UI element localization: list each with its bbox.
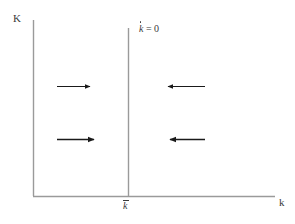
phase-diagram-figure: K k k = 0 k [0,0,295,224]
x-axis-label: k [279,197,285,208]
steady-state-tick-label: k [123,201,127,211]
nullcline-label-equation: = 0 [143,23,159,34]
nullcline-label: k = 0 [139,24,159,34]
nullcline-label-symbol: k [139,24,143,34]
steady-state-tick-symbol: k [123,201,127,211]
y-axis-label: K [13,13,21,24]
